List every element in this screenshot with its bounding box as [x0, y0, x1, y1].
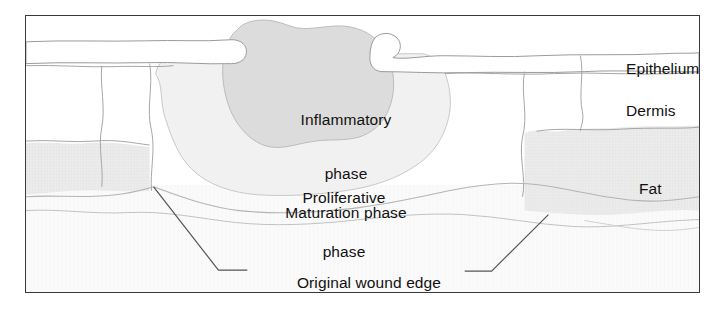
label-maturation-phase: Maturation phase — [256, 204, 436, 222]
label-inflammatory-phase-line1: Inflammatory — [271, 111, 421, 129]
label-fat: Fat — [639, 180, 662, 198]
label-epithelium: Epithelium — [626, 60, 699, 78]
epithelium-band-left — [26, 40, 246, 64]
figure-root: Epithelium Dermis Fat Inflammatory phase… — [0, 0, 723, 313]
diagram-frame: Epithelium Dermis Fat Inflammatory phase… — [25, 15, 700, 293]
fat-layer-left-region — [26, 143, 150, 195]
label-dermis: Dermis — [626, 102, 676, 120]
fat-layer-region — [525, 125, 699, 215]
label-original-wound-edge: Original wound edge — [274, 274, 464, 292]
label-proliferative-phase: Proliferative phase — [269, 152, 419, 293]
label-proliferative-phase-line2: phase — [269, 243, 419, 261]
